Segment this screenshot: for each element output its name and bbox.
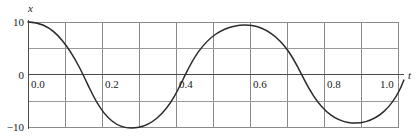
x-tick-label-0.0: 0.0	[31, 79, 45, 90]
chart-figure: 10 0 −10 0.0 0.2 0.4 0.6 0.8 1.0 x t	[0, 0, 420, 140]
x-axis-label: t	[408, 70, 411, 81]
x-tick-label-0.6: 0.6	[253, 79, 267, 90]
x-tick-label-0.8: 0.8	[327, 79, 341, 90]
y-tick-label-0: 0	[2, 70, 24, 81]
y-tick-label-minus-10: −10	[0, 122, 24, 133]
y-axis-label: x	[28, 3, 33, 14]
x-tick-label-0.4: 0.4	[179, 79, 193, 90]
x-tick-label-0.2: 0.2	[105, 79, 119, 90]
x-tick-label-1.0: 1.0	[380, 79, 394, 90]
chart-plot-area	[0, 0, 420, 140]
y-tick-label-10: 10	[2, 17, 24, 28]
